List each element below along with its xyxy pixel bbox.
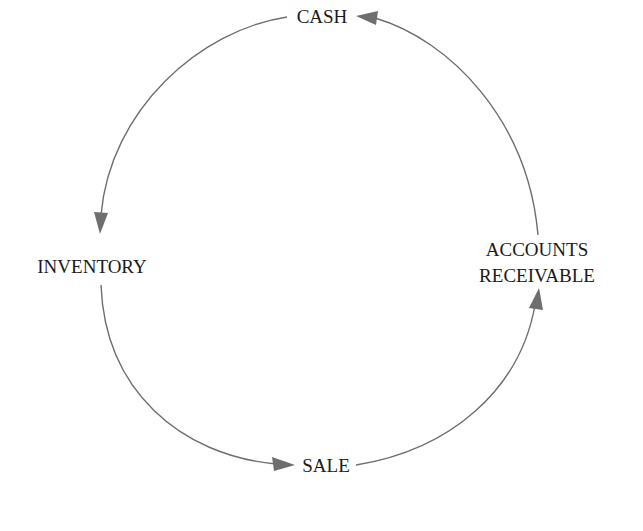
cash-cycle-diagram: CASH INVENTORY SALE ACCOUNTS RECEIVABLE (0, 0, 643, 531)
node-accounts-receivable: ACCOUNTS RECEIVABLE (479, 239, 595, 286)
edge-sale-to-ar (356, 288, 543, 465)
arrowhead-right-icon (272, 457, 295, 471)
node-sale: SALE (302, 455, 350, 476)
arrowhead-up-icon (529, 288, 543, 310)
arc-inventory-sale (101, 285, 276, 464)
node-inventory: INVENTORY (37, 256, 147, 277)
arc-sale-ar (356, 305, 535, 465)
node-ar-line2: RECEIVABLE (479, 265, 595, 286)
node-ar-line1: ACCOUNTS (486, 239, 588, 260)
arc-ar-cash (375, 18, 538, 235)
edge-cash-to-inventory (94, 17, 287, 234)
node-cash: CASH (297, 6, 348, 27)
arc-cash-inventory (101, 17, 287, 215)
arrowhead-left-icon (356, 11, 378, 25)
edge-inventory-to-sale (101, 285, 295, 471)
edge-ar-to-cash (356, 11, 538, 235)
arrowhead-down-icon (94, 212, 108, 234)
